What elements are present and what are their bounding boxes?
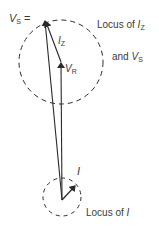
iz-subscript: Z [61,40,65,47]
locus-i-label: Locus of I [86,208,129,218]
locus-iz-text: Locus of [97,19,138,30]
i-label: I [77,166,80,176]
iz-label: IZ [58,36,65,49]
vr-label: VR [65,64,77,77]
i-symbol: I [77,165,80,177]
locus-vs-text: and [112,51,131,62]
vs-label: VS = [9,13,31,27]
locus-iz-label-line2: and VS [112,52,143,65]
phasor-diagram [0,0,159,231]
vr-subscript: R [72,68,77,75]
locus-i-text: Locus of [86,207,127,218]
i-phasor-arrow [62,186,75,200]
vs-equals: = [21,12,30,24]
vr-symbol: V [65,63,72,74]
locus-iz-label-line1: Locus of IZ [97,20,145,33]
locus-i-symbol: I [127,207,130,218]
locus-vs-subscript: S [138,56,143,63]
vr-phasor-arrow [61,63,62,200]
locus-iz-subscript: Z [140,24,144,31]
